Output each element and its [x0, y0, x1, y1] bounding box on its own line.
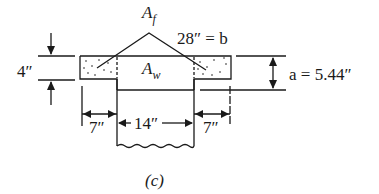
aw-symbol: A [142, 59, 152, 78]
af-symbol: A [142, 3, 152, 22]
break-line [117, 145, 194, 148]
label-left-overhang: 7″ [89, 119, 105, 136]
figure-caption: (c) [145, 172, 164, 189]
label-stress-block-depth: a = 5.44″ [289, 66, 351, 83]
label-effective-width: 28″ = b [177, 30, 228, 47]
label-flange-thickness: 4″ [17, 63, 33, 80]
label-right-overhang: 7″ [203, 119, 219, 136]
aw-subscript: w [152, 68, 160, 82]
af-subscript: f [152, 12, 155, 26]
label-flange-area: Af [142, 4, 156, 21]
label-web-width: 14″ [134, 115, 158, 132]
label-web-area: Aw [142, 60, 160, 77]
